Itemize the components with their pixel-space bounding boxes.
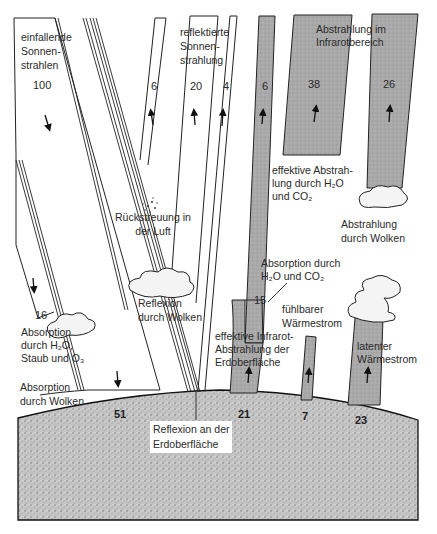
sensible-heat-band (301, 336, 316, 400)
backscatter-label: Rückstreuung inder Luft (115, 210, 191, 238)
incoming-label: einfallendeSonnen-strahlen (21, 30, 72, 72)
surface-reflection-label: Reflexion an derErdoberfläche (150, 421, 232, 453)
surface-reflection-value: 4 (223, 80, 229, 92)
absorption-clouds-label: Absorptiondurch Wolken (20, 380, 84, 408)
backscatter-value: 6 (151, 80, 157, 92)
surface-ir-value: 21 (238, 408, 250, 420)
surface-ir-escape-value: 6 (262, 80, 268, 92)
latent-heat-label: latenterWärmestrom (357, 340, 417, 366)
incoming-value: 100 (33, 79, 51, 91)
sensible-value: 7 (302, 410, 308, 422)
ir-absorbed-value: 15 (254, 294, 266, 306)
energy-balance-diagram (0, 0, 437, 534)
cloud-reflection-value: 20 (190, 80, 202, 92)
latent-value: 23 (355, 414, 367, 426)
sensible-heat-label: fühlbarerWärmestrom (282, 302, 342, 330)
earth-surface (18, 390, 418, 520)
atmos-emission-value: 38 (308, 78, 320, 90)
effective-h2o-label: effektive Abstrah-lung durch H₂Ound CO₂ (272, 164, 353, 203)
cloud-reflection-label: Reflexiondurch Wolken (138, 296, 202, 324)
absorption-gas-label: Absorptiondurch H₂O,Staub und O₃ (21, 326, 84, 365)
reflected-label: reflektierteSonnen-strahlung (180, 25, 229, 67)
surface-absorbed-value: 51 (114, 408, 126, 420)
absorbed-atmos-value: 16 (35, 309, 47, 321)
cloud-emission-label: Abstrahlungdurch Wolken (341, 217, 405, 245)
effective-ir-surface-label: effektive Infrarot-Abstrahlung derErdobe… (215, 330, 294, 369)
infrared-label: Abstrahlung imInfrarotbereich (316, 23, 386, 49)
absorption-h2o-co2-label: Absorption durchH₂O und CO₂ (261, 257, 340, 283)
cloud-emission-value: 26 (383, 78, 395, 90)
